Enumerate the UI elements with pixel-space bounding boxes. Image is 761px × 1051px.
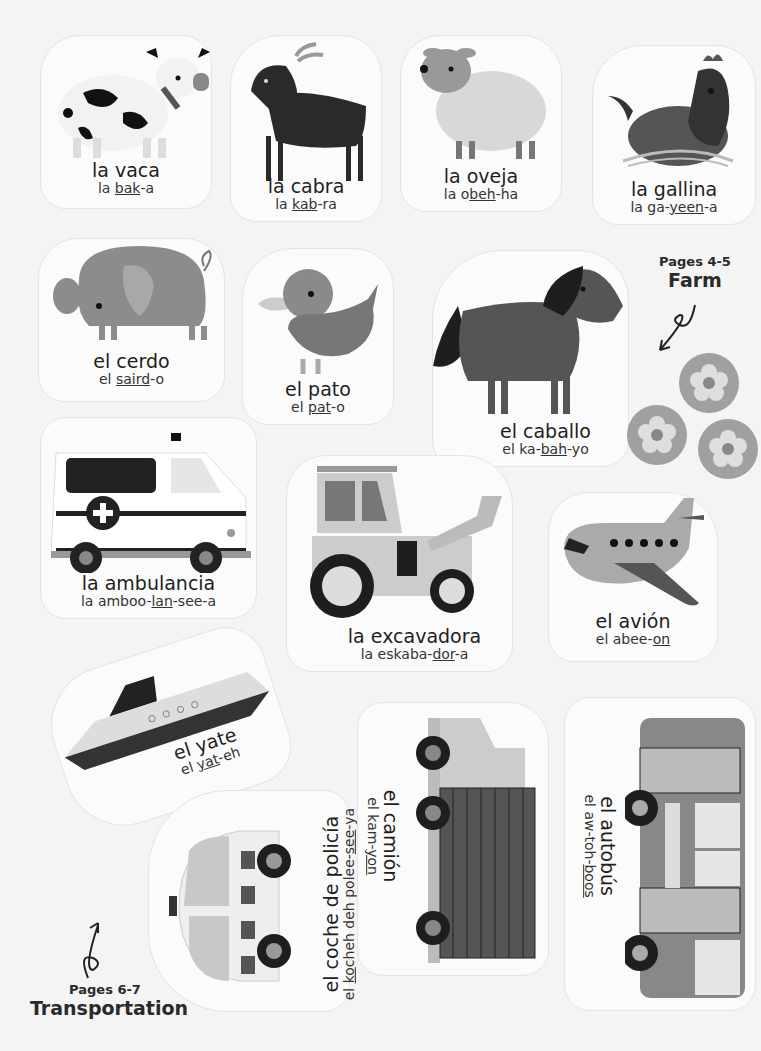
sticker-pronunciation: la kab-ra — [231, 197, 381, 212]
flower-badge-icon[interactable] — [697, 418, 759, 480]
sticker-excavator[interactable]: la excavadora la eskaba-dor-a — [286, 455, 513, 672]
sticker-police-car[interactable]: el coche de policía el kocheh deh polee-… — [148, 790, 350, 1012]
plane-icon — [554, 498, 714, 608]
curly-arrow-icon — [78, 918, 108, 980]
sticker-plane[interactable]: el avión el abee-on — [548, 492, 718, 662]
sticker-word: el coche de policía — [321, 804, 342, 1004]
sticker-word: el caballo — [463, 421, 628, 442]
sticker-label: la excavadora la eskaba-dor-a — [317, 626, 512, 662]
sticker-pronunciation: el saird-o — [39, 372, 224, 387]
sticker-sheep[interactable]: la oveja la obeh-ha — [400, 35, 562, 212]
ambulance-icon — [51, 423, 251, 573]
pig-icon — [49, 241, 219, 341]
sticker-word: el autobús — [597, 776, 618, 916]
sticker-truck[interactable]: el camión el kam-yon — [357, 702, 549, 976]
sticker-word: la gallina — [593, 179, 755, 200]
sticker-word: la vaca — [41, 160, 211, 181]
duck-icon — [253, 259, 383, 374]
police-car-icon — [159, 811, 299, 1001]
sticker-pronunciation: el abee-on — [549, 632, 717, 647]
sticker-label: el avión el abee-on — [549, 611, 717, 647]
goat-icon — [236, 41, 376, 181]
cow-icon — [53, 38, 213, 158]
horse-icon — [433, 251, 628, 416]
sticker-word: el avión — [549, 611, 717, 632]
sticker-goat[interactable]: la cabra la kab-ra — [230, 35, 382, 222]
excavator-icon — [297, 461, 507, 621]
sticker-word: el camión — [380, 766, 401, 906]
sticker-label: la cabra la kab-ra — [231, 176, 381, 212]
section-label-farm: Pages 4-5 Farm — [655, 254, 735, 291]
flower-badge-icon[interactable] — [626, 404, 688, 466]
sticker-label: el pato el pat-o — [243, 379, 393, 415]
hen-icon — [603, 51, 743, 176]
sticker-word: el cerdo — [39, 351, 224, 372]
sticker-duck[interactable]: el pato el pat-o — [242, 248, 394, 425]
sticker-label: la ambulancia la amboo-lan-see-a — [41, 573, 256, 609]
sticker-label: el autobús el aw-toh-boos — [582, 776, 618, 916]
section-pages: Pages 6-7 — [30, 982, 180, 997]
sticker-cow[interactable]: la vaca la bak-a — [40, 35, 212, 209]
sticker-pronunciation: la eskaba-dor-a — [317, 647, 512, 662]
sticker-word: el pato — [243, 379, 393, 400]
sticker-label: la vaca la bak-a — [41, 160, 211, 196]
sticker-pig[interactable]: el cerdo el saird-o — [38, 238, 225, 402]
sticker-horse[interactable]: el caballo el ka-bah-yo — [432, 250, 629, 467]
truck-icon — [413, 713, 543, 968]
bus-icon — [625, 708, 750, 1003]
sticker-label: la oveja la obeh-ha — [401, 166, 561, 202]
sticker-pronunciation: la amboo-lan-see-a — [41, 594, 256, 609]
sticker-pronunciation: el kocheh deh polee-see-ya — [342, 804, 357, 1004]
curly-arrow-icon — [655, 300, 715, 360]
sticker-pronunciation: la bak-a — [41, 181, 211, 196]
yacht-icon — [43, 637, 285, 792]
sticker-pronunciation: la obeh-ha — [401, 187, 561, 202]
sticker-label: la gallina la ga-yeen-a — [593, 179, 755, 215]
sticker-label: el cerdo el saird-o — [39, 351, 224, 387]
sticker-bus[interactable]: el autobús el aw-toh-boos — [564, 697, 756, 1011]
section-title: Farm — [655, 269, 735, 291]
sticker-word: la ambulancia — [41, 573, 256, 594]
sticker-pronunciation: la ga-yeen-a — [593, 200, 755, 215]
sticker-pronunciation: el aw-toh-boos — [582, 776, 597, 916]
section-title: Transportation — [30, 997, 180, 1019]
sticker-label: el coche de policía el kocheh deh polee-… — [321, 804, 357, 1004]
sticker-pronunciation: el kam-yon — [365, 766, 380, 906]
section-label-transportation: Pages 6-7 Transportation — [30, 982, 180, 1019]
sticker-ambulance[interactable]: la ambulancia la amboo-lan-see-a — [40, 417, 257, 619]
sticker-word: la excavadora — [317, 626, 512, 647]
sticker-word: la oveja — [401, 166, 561, 187]
sticker-hen[interactable]: la gallina la ga-yeen-a — [592, 45, 756, 225]
section-pages: Pages 4-5 — [655, 254, 735, 269]
sticker-pronunciation: el pat-o — [243, 400, 393, 415]
sticker-label: el caballo el ka-bah-yo — [463, 421, 628, 457]
sticker-label: el camión el kam-yon — [365, 766, 401, 906]
sticker-word: la cabra — [231, 176, 381, 197]
sheep-icon — [411, 41, 551, 161]
sticker-pronunciation: el ka-bah-yo — [463, 442, 628, 457]
